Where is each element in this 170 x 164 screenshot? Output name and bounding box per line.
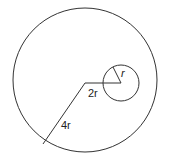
large-circle	[13, 8, 157, 152]
offset-label: 2r	[88, 87, 98, 99]
large-radius-label: 4r	[61, 119, 71, 131]
small-radius-label: r	[121, 67, 126, 79]
circles-diagram: r 2r 4r	[0, 0, 170, 164]
small-radius-segment	[113, 67, 121, 83]
large-radius-segment	[43, 83, 85, 144]
